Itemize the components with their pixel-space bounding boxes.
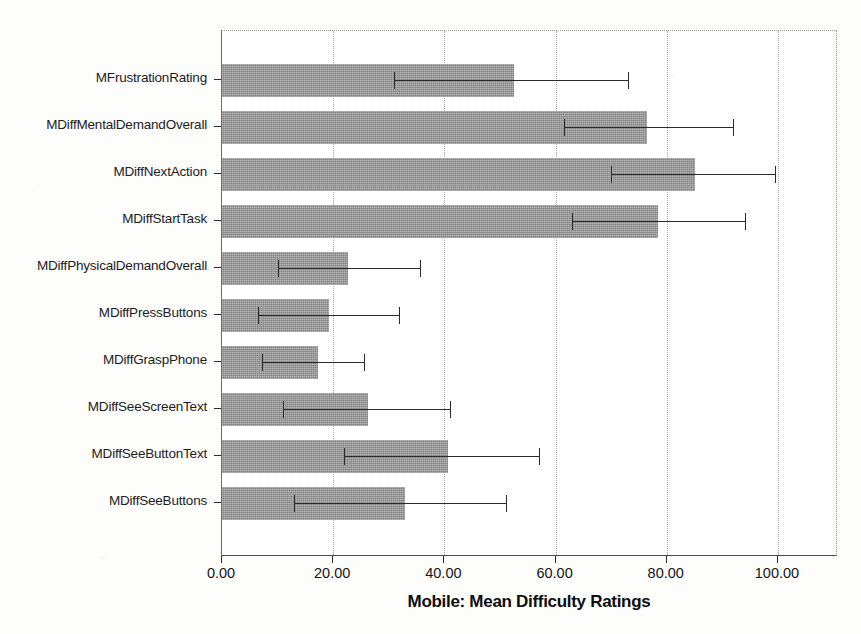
y-axis-label-MDiffStartTask: MDiffStartTask	[122, 211, 207, 226]
bar-row	[222, 433, 838, 480]
y-axis-tick	[214, 267, 221, 268]
x-axis-tick-label: 100.00	[755, 565, 799, 581]
bar-row	[222, 292, 838, 339]
plot-area	[221, 30, 837, 556]
error-bar-line	[294, 503, 505, 504]
y-axis-label-MDiffMentalDemandOverall: MDiffMentalDemandOverall	[46, 117, 207, 132]
error-bar-cap-high	[450, 401, 451, 418]
error-bar-cap-high	[733, 119, 734, 136]
error-bar-line	[262, 362, 364, 363]
error-bar-cap-high	[628, 72, 629, 89]
y-axis-tick	[214, 408, 221, 409]
error-bar-line	[564, 127, 734, 128]
bar-row	[222, 339, 838, 386]
error-bar-cap-low	[258, 307, 259, 324]
x-axis-tick	[443, 556, 444, 563]
x-axis-tick-label: 60.00	[536, 565, 572, 581]
y-axis-label-MDiffSeeButtonText: MDiffSeeButtonText	[92, 446, 207, 461]
error-bar-cap-low	[283, 401, 284, 418]
y-axis-label-group: MFrustrationRatingMDiffMentalDemandOvera…	[0, 30, 214, 556]
x-axis-tick	[555, 556, 556, 563]
y-axis-label-MDiffSeeScreenText: MDiffSeeScreenText	[88, 399, 207, 414]
error-bar-cap-high	[399, 307, 400, 324]
x-axis-tick-label: 20.00	[314, 565, 350, 581]
x-axis-tick-label: 0.00	[207, 565, 235, 581]
error-bar-cap-low	[294, 495, 295, 512]
bar-row	[222, 480, 838, 527]
y-axis-tick	[214, 220, 221, 221]
bar-row	[222, 245, 838, 292]
error-bar-cap-low	[344, 448, 345, 465]
error-bar-cap-low	[278, 260, 279, 277]
error-bar-line	[344, 456, 539, 457]
error-bar-cap-low	[572, 213, 573, 230]
error-bar-line	[258, 315, 399, 316]
y-axis-tick	[214, 361, 221, 362]
error-bar-line	[394, 80, 628, 81]
error-bar-line	[572, 221, 744, 222]
bar-row	[222, 104, 838, 151]
error-bar-cap-low	[262, 354, 263, 371]
y-axis-label-MDiffSeeButtons: MDiffSeeButtons	[109, 493, 207, 508]
y-axis-label-MFrustrationRating: MFrustrationRating	[96, 70, 207, 85]
y-axis-tick	[214, 502, 221, 503]
error-bar-line	[278, 268, 421, 269]
x-axis-title: Mobile: Mean Difficulty Ratings	[221, 592, 837, 612]
y-axis-tick	[214, 126, 221, 127]
error-bar-cap-high	[506, 495, 507, 512]
error-bar-cap-high	[364, 354, 365, 371]
y-axis-label-MDiffPressButtons: MDiffPressButtons	[99, 305, 207, 320]
error-bar-cap-low	[394, 72, 395, 89]
error-bar-cap-high	[420, 260, 421, 277]
y-axis-tick	[214, 79, 221, 80]
chart-page: MFrustrationRatingMDiffMentalDemandOvera…	[0, 0, 861, 634]
error-bar-line	[283, 409, 450, 410]
error-bar-cap-high	[539, 448, 540, 465]
bar-row	[222, 57, 838, 104]
x-axis-tick	[777, 556, 778, 563]
y-axis-tick	[214, 173, 221, 174]
x-axis-tick-label: 40.00	[425, 565, 461, 581]
x-axis-tick-label: 80.00	[648, 565, 684, 581]
y-axis-tick	[214, 314, 221, 315]
bar-row	[222, 198, 838, 245]
error-bar-cap-high	[745, 213, 746, 230]
x-axis-tick	[666, 556, 667, 563]
y-axis-label-MDiffGraspPhone: MDiffGraspPhone	[103, 352, 207, 367]
error-bar-cap-low	[611, 166, 612, 183]
x-axis-tick	[221, 556, 222, 563]
y-axis-tick	[214, 455, 221, 456]
error-bar-cap-high	[775, 166, 776, 183]
bar-row	[222, 386, 838, 433]
x-axis-tick	[332, 556, 333, 563]
y-axis-label-MDiffPhysicalDemandOverall: MDiffPhysicalDemandOverall	[37, 258, 207, 273]
bar-row	[222, 151, 838, 198]
error-bar-cap-low	[564, 119, 565, 136]
error-bar-line	[611, 174, 775, 175]
y-axis-label-MDiffNextAction: MDiffNextAction	[113, 164, 207, 179]
